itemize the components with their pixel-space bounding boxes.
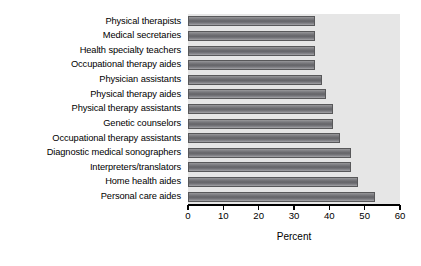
bar-row	[188, 131, 400, 146]
bar	[188, 162, 351, 172]
bar-row	[188, 175, 400, 190]
x-tick-label: 20	[253, 211, 264, 221]
category-label: Occupational therapy assistants	[0, 131, 184, 146]
bar	[188, 75, 322, 85]
bar-row	[188, 116, 400, 131]
bar	[188, 46, 315, 56]
x-tick-label: 40	[324, 211, 335, 221]
bar-chart: Physical therapistsMedical secretariesHe…	[0, 0, 421, 266]
x-axis-title: Percent	[188, 231, 400, 242]
bar	[188, 89, 326, 99]
bar	[188, 16, 315, 26]
bar-row	[188, 160, 400, 175]
category-label: Personal care aides	[0, 189, 184, 204]
category-label: Physical therapy aides	[0, 87, 184, 102]
category-label: Health specialty teachers	[0, 43, 184, 58]
category-axis-labels: Physical therapistsMedical secretariesHe…	[0, 14, 184, 204]
bar	[188, 148, 351, 158]
x-tick-label: 30	[289, 211, 300, 221]
bar-row	[188, 189, 400, 204]
category-label: Physician assistants	[0, 72, 184, 87]
bar	[188, 192, 375, 202]
bar-row	[188, 102, 400, 117]
category-label: Physical therapy assistants	[0, 102, 184, 117]
bar-row	[188, 58, 400, 73]
plot-area	[188, 14, 400, 204]
bar-row	[188, 29, 400, 44]
x-tick-label: 50	[359, 211, 370, 221]
category-label: Physical therapists	[0, 14, 184, 29]
x-tick-label: 60	[395, 211, 406, 221]
bar	[188, 119, 333, 129]
category-label: Occupational therapy aides	[0, 58, 184, 73]
bar	[188, 177, 358, 187]
bar	[188, 133, 340, 143]
bars-container	[188, 14, 400, 204]
bar	[188, 60, 315, 70]
bar-row	[188, 72, 400, 87]
x-tick-label: 10	[218, 211, 229, 221]
category-label: Diagnostic medical sonographers	[0, 145, 184, 160]
bar-row	[188, 43, 400, 58]
bar	[188, 104, 333, 114]
x-tick-label: 0	[185, 211, 190, 221]
bar-row	[188, 145, 400, 160]
bar-row	[188, 14, 400, 29]
category-label: Home health aides	[0, 175, 184, 190]
bar	[188, 31, 315, 41]
category-label: Medical secretaries	[0, 29, 184, 44]
category-label: Interpreters/translators	[0, 160, 184, 175]
bar-row	[188, 87, 400, 102]
category-label: Genetic counselors	[0, 116, 184, 131]
